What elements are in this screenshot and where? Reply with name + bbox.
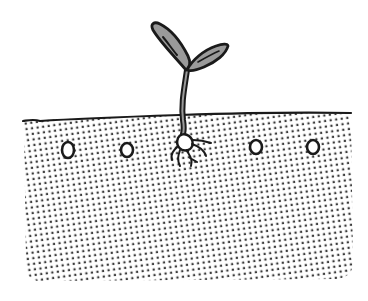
sprout-stem [182, 70, 187, 134]
seed [307, 140, 319, 154]
seed [250, 140, 262, 154]
seed [121, 143, 133, 157]
leaf-right [187, 44, 228, 70]
illustration-svg [0, 0, 368, 301]
seed [62, 142, 74, 158]
seedling-illustration [0, 0, 368, 301]
leaf-left [152, 23, 190, 70]
root-base [177, 134, 192, 150]
